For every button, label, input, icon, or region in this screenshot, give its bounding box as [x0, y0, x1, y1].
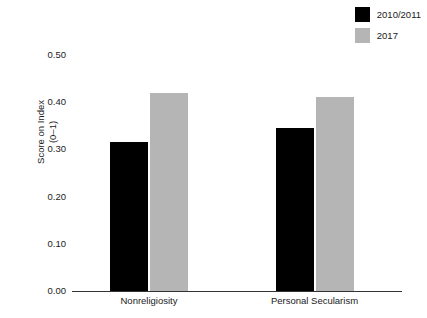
y-axis-tick-labels: 0.500.400.300.200.100.00 [0, 50, 66, 292]
y-axis-tick-0-40: 0.40 [48, 97, 67, 107]
chart-legend: 2010/2011 2017 [355, 7, 421, 43]
legend-item-2010-2011: 2010/2011 [355, 7, 421, 22]
legend-swatch-2017 [355, 28, 370, 43]
x-axis-line [72, 291, 402, 292]
x-axis-label-personal-secularism: Personal Secularism [235, 296, 395, 306]
legend-item-2017: 2017 [355, 28, 421, 43]
bar-nonreligiosity-2017 [150, 93, 188, 291]
bar-nonreligiosity-2010-2011 [110, 142, 148, 291]
y-axis-tick-0-20: 0.20 [48, 192, 67, 202]
y-axis-tick-0-00: 0.00 [48, 286, 67, 296]
bar-personal-secularism-2010-2011 [276, 128, 314, 291]
legend-label-2010-2011: 2010/2011 [377, 10, 421, 20]
x-axis-label-nonreligiosity: Nonreligiosity [69, 296, 229, 306]
plot-area [72, 50, 402, 292]
legend-label-2017: 2017 [377, 31, 398, 41]
legend-swatch-2010-2011 [355, 7, 370, 22]
bar-chart: 2010/2011 2017 Score on Index (0–1) 0.50… [0, 0, 427, 318]
bars-layer [72, 50, 402, 291]
y-axis-tick-0-50: 0.50 [48, 50, 67, 60]
y-axis-tick-0-30: 0.30 [48, 144, 67, 154]
bar-personal-secularism-2017 [316, 97, 354, 291]
y-axis-tick-0-10: 0.10 [48, 239, 67, 249]
x-axis-tick-labels: NonreligiosityPersonal Secularism [72, 296, 402, 312]
